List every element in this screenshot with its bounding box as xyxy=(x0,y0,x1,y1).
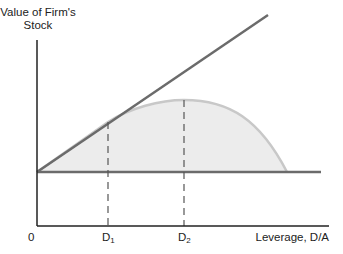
tick-d1: D1 xyxy=(102,231,115,245)
x-axis-label: Leverage, D/A xyxy=(255,231,329,243)
origin-label: 0 xyxy=(28,231,34,243)
chart-canvas xyxy=(0,0,343,254)
value-area-fill xyxy=(37,100,287,172)
tick-d2: D2 xyxy=(178,231,191,245)
y-axis-label: Value of Firm's Stock xyxy=(0,6,76,32)
